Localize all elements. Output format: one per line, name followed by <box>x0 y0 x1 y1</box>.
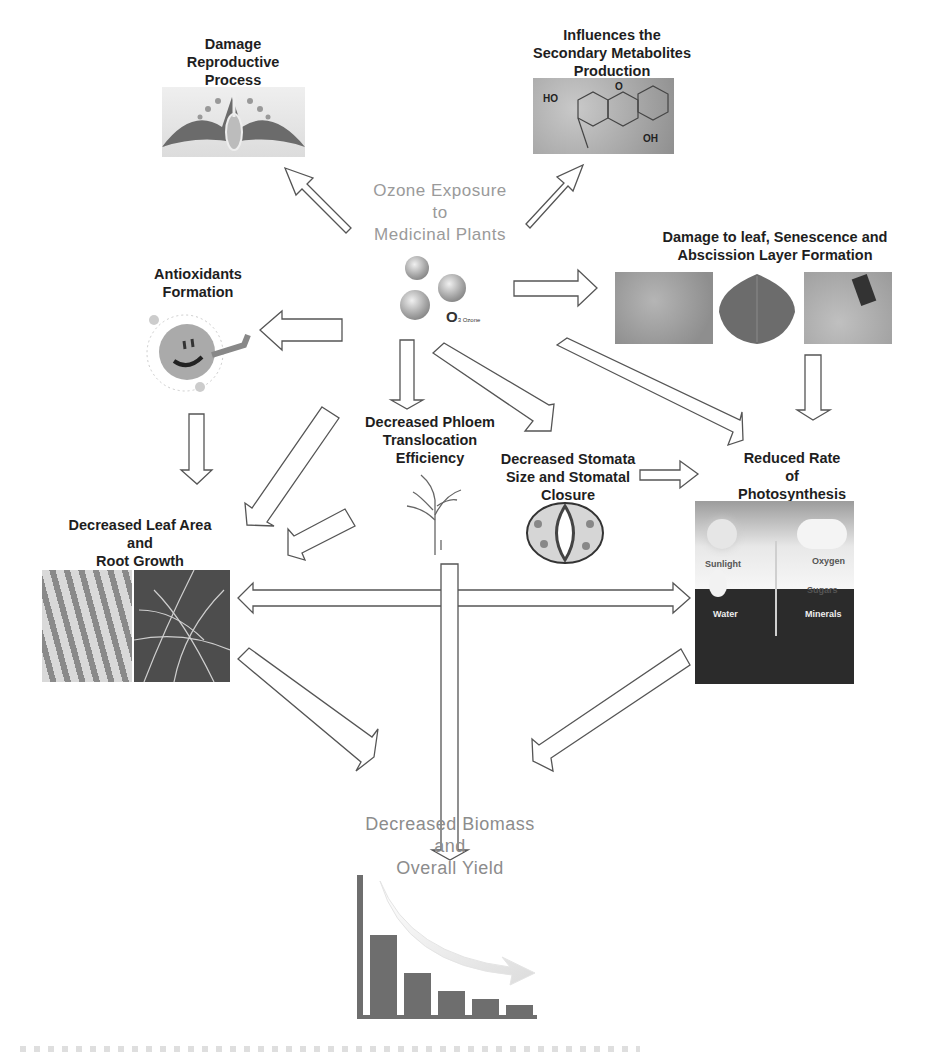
node-reproductive-label: Damage Reproductive Process <box>150 35 316 89</box>
arrow-leafroot-to-biomass <box>238 648 378 771</box>
leaf-damage-image-1 <box>615 272 713 344</box>
molecule-o: O <box>615 81 623 92</box>
arrow-ozone-to-phloem <box>391 340 423 409</box>
chart-bar <box>370 935 397 1015</box>
chart-bar <box>404 973 431 1015</box>
arrow-leafdamage-to-photosynthesis <box>797 355 830 420</box>
flower-reproductive-image <box>162 87 305 157</box>
node-secondary-metabolites-label: Influences the Secondary Metabolites Pro… <box>512 26 712 80</box>
chart-y-axis <box>357 875 363 1018</box>
node-stomata-label: Decreased Stomata Size and Stomatal Clos… <box>493 450 643 504</box>
metabolite-molecule-image: HO O OH <box>533 78 674 154</box>
cropped-caption-text <box>20 1046 640 1052</box>
molecule-ho: HO <box>543 93 558 104</box>
label-minerals: Minerals <box>805 609 842 619</box>
root-growth-image <box>134 570 230 682</box>
chart-bar <box>506 1005 533 1015</box>
arrow-phloem-to-leafroot <box>288 509 355 560</box>
yield-bar-chart <box>350 875 550 1020</box>
node-leaf-root-label: Decreased Leaf Area and Root Growth <box>40 516 240 570</box>
chart-bar <box>438 991 465 1015</box>
chart-x-axis <box>357 1015 537 1019</box>
label-oxygen: Oxygen <box>812 556 845 566</box>
leaf-area-image <box>42 570 132 682</box>
phloem-translocation-icon <box>405 470 465 555</box>
stomata-icon <box>524 502 606 564</box>
label-sunlight: Sunlight <box>705 559 741 569</box>
label-water: Water <box>713 609 738 619</box>
arrow-leafroot-photosynthesis-bidirectional <box>238 583 690 613</box>
ozone-formula-sub: 3 Ozone <box>458 317 481 323</box>
node-antioxidants-label: Antioxidants Formation <box>138 265 258 301</box>
arrow-ozone-to-leafroot <box>245 407 339 526</box>
ozone-formula-o: O <box>446 308 458 325</box>
arrow-ozone-to-photosynthesis <box>557 338 743 445</box>
trend-arrow-icon <box>380 881 535 985</box>
chart-bar <box>472 999 499 1015</box>
leaf-damage-image-2 <box>717 272 797 344</box>
arrow-ozone-to-antioxidants <box>260 311 342 350</box>
node-phloem-label: Decreased Phloem Translocation Efficienc… <box>365 413 495 467</box>
antioxidant-smiley-icon <box>140 305 260 395</box>
node-leaf-damage-label: Damage to leaf, Senescence and Abscissio… <box>625 228 925 264</box>
node-biomass-label: Decreased Biomass and Overall Yield <box>335 813 565 879</box>
arrow-photosynthesis-to-biomass <box>532 649 690 771</box>
molecule-oh: OH <box>643 133 658 144</box>
ozone-formula: O3 Ozone <box>446 308 480 325</box>
node-photosynthesis-label: Reduced Rate of Photosynthesis <box>712 449 872 503</box>
photosynthesis-image: Sunlight Oxygen Sugars Water Minerals <box>695 501 854 684</box>
arrow-antioxidants-to-leafroot <box>181 414 212 484</box>
leaf-damage-image-3 <box>804 272 892 344</box>
arrow-ozone-to-leaf-damage <box>514 270 597 306</box>
arrow-stomata-to-photosynthesis <box>640 461 698 488</box>
ozone-title: Ozone Exposure to Medicinal Plants <box>330 180 550 246</box>
label-sugars: Sugars <box>807 585 838 595</box>
